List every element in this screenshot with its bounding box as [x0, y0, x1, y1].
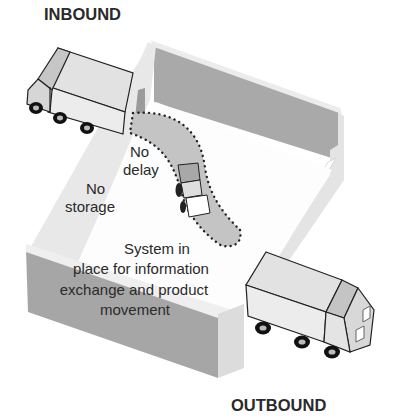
outbound-truck-icon — [246, 252, 374, 359]
system-label-line4: movement — [100, 301, 171, 318]
cross-docking-diagram: INBOUND OUTBOUND No delay No storage Sys… — [0, 0, 394, 419]
no-delay-label-line2: delay — [123, 161, 159, 178]
no-delay-label-line1: No — [130, 143, 149, 160]
no-storage-label-line1: No — [86, 180, 105, 197]
no-storage-label-line2: storage — [65, 198, 115, 215]
inbound-label: INBOUND — [44, 5, 121, 23]
system-label-line2: place for information — [73, 260, 209, 277]
outbound-label: OUTBOUND — [231, 396, 326, 414]
system-label-line3: exchange and product — [60, 281, 209, 298]
system-label-line1: System in — [124, 240, 190, 257]
inbound-truck-icon — [27, 48, 133, 134]
